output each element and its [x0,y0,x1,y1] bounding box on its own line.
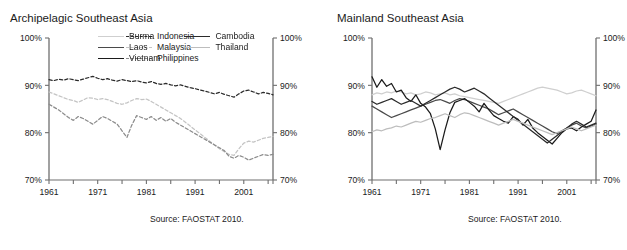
legend-column: CambodiaThailand [184,31,254,64]
legend-label: Laos [129,42,148,53]
y-axis-tick-label-left: 80% [348,128,366,138]
y-axis-tick-label-right: 80% [280,128,298,138]
series-line-philippines [49,104,273,160]
x-axis-tick-label: 1981 [460,187,479,197]
panel-mainland: Mainland Southeast Asia 70%70%80%80%90%9… [313,0,626,250]
y-axis-tick-label-right: 90% [603,81,621,91]
y-axis-tick-label-left: 90% [348,81,366,91]
legend-label: Burma [129,31,154,42]
series-line-malaysia [49,92,273,155]
legend-swatch-vietnam-icon [98,58,124,59]
series-line-indonesia [49,76,273,97]
legend-item-vietnam[interactable]: Vietnam [98,53,160,64]
y-axis-tick-label-left: 100% [343,33,365,43]
x-axis-tick-label: 1971 [88,187,107,197]
legend-label: Cambodia [215,31,254,42]
chart-svg-archipelagic: 70%70%80%80%90%90%100%100%19611971198119… [0,0,313,200]
y-axis-tick-label-left: 80% [25,128,43,138]
y-axis-tick-label-left: 70% [348,175,366,185]
y-axis-tick-label-right: 90% [280,81,298,91]
legend-swatch-cambodia-icon [184,36,210,37]
legend-item-thailand[interactable]: Thailand [184,42,254,53]
x-axis-tick-label: 1991 [186,187,205,197]
chart-svg-mainland: 70%70%80%80%90%90%100%100%19611971198119… [313,0,626,200]
series-line-cambodia [372,87,596,143]
y-axis-tick-label-left: 90% [25,81,43,91]
legend-swatch-thailand-icon [184,47,210,48]
legend-swatch-burma-icon [98,36,124,37]
y-axis-tick-label-right: 70% [603,175,621,185]
legend-label: Vietnam [129,53,160,64]
source-note-mainland: Source: FAOSTAT 2010. [468,214,562,224]
legend-item-burma[interactable]: Burma [98,31,160,42]
legend-swatch-laos-icon [98,47,124,48]
x-axis-tick-label: 2001 [234,187,253,197]
x-axis-tick-label: 1961 [362,187,381,197]
figure-root: Archipelagic Southeast Asia 70%70%80%80%… [0,0,627,250]
legend-column: BurmaLaosVietnam [98,31,160,64]
y-axis-tick-label-left: 70% [25,175,43,185]
y-axis-tick-label-left: 100% [20,33,42,43]
x-axis-tick-label: 1981 [137,187,156,197]
legend-item-laos[interactable]: Laos [98,42,160,53]
series-line-vietnam [372,77,596,150]
x-axis-tick-label: 2001 [557,187,576,197]
legend-item-cambodia[interactable]: Cambodia [184,31,254,42]
y-axis-tick-label-right: 70% [280,175,298,185]
source-note-archipelagic: Source: FAOSTAT 2010. [150,214,244,224]
legend-label: Thailand [215,42,248,53]
series-line-burma [372,87,596,103]
plot-area-mainland: 70%70%80%80%90%90%100%100%19611971198119… [313,0,626,200]
plot-area-archipelagic: 70%70%80%80%90%90%100%100%19611971198119… [0,0,313,200]
legend-mainland: BurmaLaosVietnamCambodiaThailand [98,31,255,64]
x-axis-tick-label: 1991 [509,187,528,197]
y-axis-tick-label-right: 100% [280,33,302,43]
x-axis-tick-label: 1971 [411,187,430,197]
x-axis-tick-label: 1961 [39,187,58,197]
y-axis-tick-label-right: 80% [603,128,621,138]
y-axis-tick-label-right: 100% [603,33,625,43]
